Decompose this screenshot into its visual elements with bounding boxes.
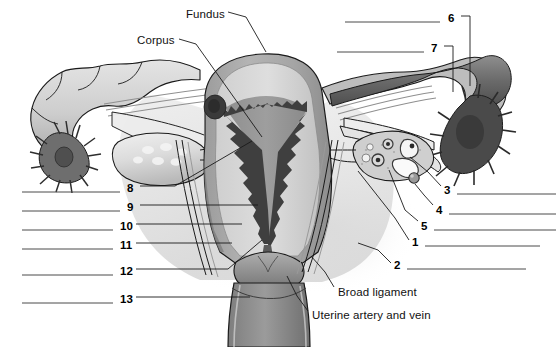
number-label-3: 3	[444, 184, 450, 196]
number-label-6: 6	[448, 12, 454, 24]
number-label-2: 2	[394, 259, 400, 271]
label-broad-ligament: Broad ligament	[338, 286, 417, 298]
leader-line-1	[358, 171, 409, 240]
leader-line-broad-ligament	[311, 256, 334, 287]
answer-lines-group	[22, 22, 556, 303]
leader-line-fundus	[228, 12, 266, 52]
number-label-5: 5	[421, 220, 427, 232]
leader-line-2	[358, 243, 391, 263]
number-label-9: 9	[127, 201, 133, 213]
number-label-8: 8	[127, 182, 133, 194]
leader-line-6	[461, 16, 470, 86]
leader-lines-group	[136, 12, 470, 311]
number-label-11: 11	[120, 239, 132, 251]
leader-line-7	[444, 46, 453, 92]
label-corpus: Corpus	[137, 34, 175, 46]
label-uterine-artery-and-vein: Uterine artery and vein	[312, 309, 431, 321]
number-label-7: 7	[431, 42, 437, 54]
leader-line-3	[410, 157, 441, 186]
leader-line-12	[136, 240, 262, 269]
leader-line-8	[140, 141, 252, 186]
leader-line-uterine-artery-and-vein	[287, 276, 308, 311]
label-lines-layer	[0, 0, 558, 347]
leader-line-4	[415, 184, 433, 205]
number-label-4: 4	[436, 204, 442, 216]
number-label-1: 1	[412, 236, 418, 248]
number-label-10: 10	[120, 220, 133, 232]
leader-line-corpus	[179, 39, 262, 137]
leader-line-5	[389, 170, 418, 221]
diagram-canvas: FundusCorpusBroad ligamentUterine artery…	[0, 0, 558, 347]
label-fundus: Fundus	[186, 8, 225, 20]
number-label-13: 13	[120, 293, 133, 305]
number-label-12: 12	[120, 265, 133, 277]
